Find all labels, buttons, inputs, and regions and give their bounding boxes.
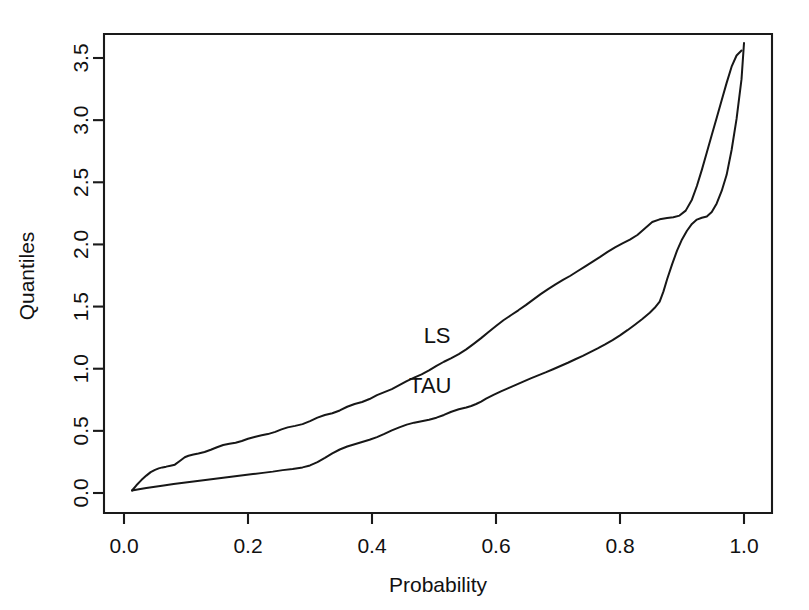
x-tick-label: 0.2 (233, 534, 262, 557)
y-axis-title: Quantiles (15, 232, 38, 321)
chart-background (0, 0, 809, 610)
y-tick-label: 0.5 (69, 416, 92, 445)
y-tick-label: 3.0 (69, 106, 92, 135)
y-tick-label: 2.5 (69, 168, 92, 197)
chart-figure: 0.00.51.01.52.02.53.03.5 0.00.20.40.60.8… (0, 0, 809, 610)
y-tick-label: 1.0 (69, 354, 92, 383)
y-tick-label: 3.5 (69, 43, 92, 72)
y-tick-label: 2.0 (69, 230, 92, 259)
x-tick-label: 0.4 (357, 534, 387, 557)
x-axis-title: Probability (389, 573, 488, 596)
x-tick-label: 0.0 (109, 534, 138, 557)
series-label-ls: LS (424, 323, 451, 348)
x-tick-label: 0.6 (481, 534, 510, 557)
y-tick-label: 1.5 (69, 292, 92, 321)
x-tick-label: 1.0 (729, 534, 758, 557)
chart-canvas: 0.00.51.01.52.02.53.03.5 0.00.20.40.60.8… (0, 0, 809, 610)
series-label-tau: TAU (409, 373, 451, 398)
x-tick-label: 0.8 (605, 534, 634, 557)
y-tick-label: 0.0 (69, 478, 92, 507)
